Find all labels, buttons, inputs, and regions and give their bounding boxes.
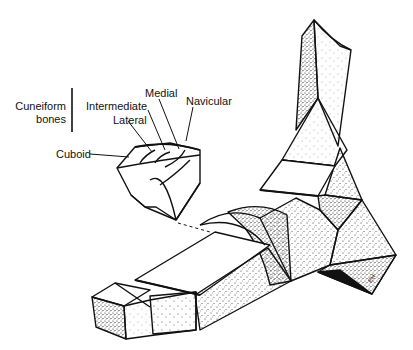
tarsal-piece bbox=[117, 143, 200, 220]
cuneiform-bones-label: Cuneiform bones bbox=[0, 100, 66, 126]
cuneiform-label-line2: bones bbox=[0, 113, 66, 126]
medial-label: Medial bbox=[145, 87, 177, 100]
cuboid-label: Cuboid bbox=[56, 148, 91, 161]
foot-bones-illustration: EH bbox=[0, 0, 413, 350]
cuneiform-label-line1: Cuneiform bbox=[0, 100, 66, 113]
lateral-label: Lateral bbox=[113, 114, 147, 127]
intermediate-label: Intermediate bbox=[86, 100, 147, 113]
navicular-label: Navicular bbox=[186, 95, 232, 108]
